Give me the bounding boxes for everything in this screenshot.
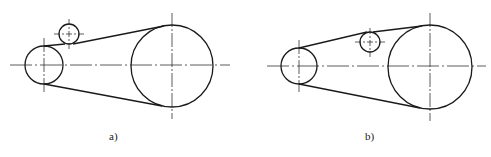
caption-b: b) <box>365 130 374 142</box>
belt-upper-span-2 <box>73 26 164 44</box>
caption-a: a) <box>109 130 118 142</box>
belt-upper-span-1 <box>44 44 65 46</box>
diagram-b-belt-drive-idler-inside <box>267 13 486 121</box>
belt-lower-span <box>44 84 162 106</box>
belt-upper-span-2 <box>373 26 422 32</box>
belt-lower-span <box>299 84 420 108</box>
belt-upper-span-1 <box>299 32 367 48</box>
diagram-a-belt-drive-idler-outside <box>10 13 230 119</box>
belt-drive-diagrams <box>0 0 491 157</box>
